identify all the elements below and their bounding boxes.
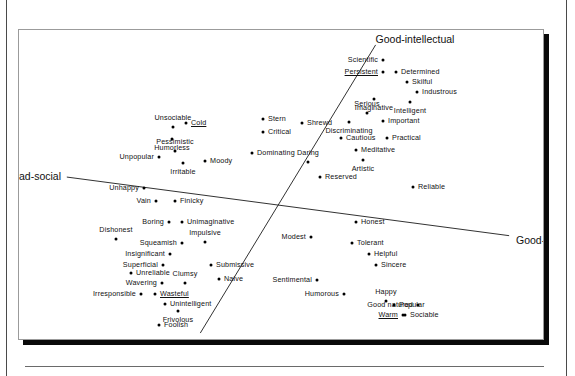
scatter-point — [155, 200, 158, 203]
scatter-point — [393, 304, 396, 307]
scatter-point — [158, 156, 161, 159]
point-label: Happy — [375, 288, 397, 296]
point-label: Reserved — [325, 173, 357, 181]
scatter-point — [174, 200, 177, 203]
scatter-point — [343, 293, 346, 296]
point-label: Irresponsible — [93, 290, 136, 298]
page-footer-rule — [25, 366, 544, 367]
point-label: Unreliable — [136, 269, 170, 277]
scatter-point — [340, 137, 343, 140]
figure-plot-area: ScientificPersistentDeterminedSkilfulInd… — [18, 29, 544, 340]
scatter-point — [262, 131, 265, 134]
point-label: Unpopular — [120, 153, 154, 161]
point-label: Warm — [379, 311, 398, 319]
scatter-point — [416, 91, 419, 94]
scatter-point — [375, 264, 378, 267]
scatter-point — [158, 324, 161, 327]
point-label: Daring — [297, 149, 319, 157]
point-label: Persistent — [345, 68, 378, 76]
scatter-point — [204, 160, 207, 163]
scatter-point — [184, 282, 187, 285]
point-label: Sentimental — [272, 276, 312, 284]
scatter-point — [351, 242, 354, 245]
scatter-point — [140, 293, 143, 296]
scatter-point — [130, 272, 133, 275]
point-label: Foolish — [164, 321, 188, 329]
point-label: Humorous — [305, 290, 339, 298]
point-label: Vain — [137, 197, 151, 205]
scatter-point — [115, 238, 118, 241]
point-label: Submissive — [216, 261, 254, 269]
scatter-point — [251, 152, 254, 155]
scatter-point — [382, 71, 385, 74]
scatter-point — [382, 59, 385, 62]
scatter-point — [348, 121, 351, 124]
point-label: Cautious — [346, 134, 376, 142]
point-label: Dishonest — [99, 226, 132, 234]
scatter-point — [395, 71, 398, 74]
point-label: Serious — [354, 100, 379, 108]
scatter-point — [404, 314, 407, 317]
page-border-right — [566, 0, 567, 376]
point-label: Clumsy — [173, 270, 198, 278]
point-label: Finicky — [180, 197, 203, 205]
point-label: Wavering — [126, 279, 157, 287]
point-label: Impulsive — [189, 229, 221, 237]
scatter-point — [182, 162, 185, 165]
axis-end-label: Bad-social — [18, 170, 61, 182]
point-label: Unimaginative — [187, 218, 234, 226]
scatter-point — [316, 279, 319, 282]
point-label: Wasteful — [160, 290, 189, 298]
point-label: Unhappy — [109, 184, 139, 192]
scatter-point — [362, 159, 365, 162]
axis-end-label: Good-social — [516, 234, 544, 246]
scatter-point — [366, 112, 369, 115]
scatter-point — [307, 161, 310, 164]
point-label: Sincere — [381, 261, 406, 269]
point-label: Dominating — [257, 149, 295, 157]
point-label: Shrewd — [307, 119, 332, 127]
point-label: Tolerant — [357, 239, 384, 247]
point-label: Scientific — [348, 56, 378, 64]
scatter-point — [162, 264, 165, 267]
point-label: Cold — [191, 119, 206, 127]
point-label: Critical — [268, 128, 291, 136]
scatter-point — [177, 310, 180, 313]
scatter-point — [168, 221, 171, 224]
point-label: Naive — [224, 275, 243, 283]
scatter-point — [355, 149, 358, 152]
scatter-point — [172, 126, 175, 129]
point-label: Popular — [399, 301, 425, 309]
point-label: Meditative — [361, 146, 395, 154]
scatter-point — [412, 186, 415, 189]
scatter-point — [204, 241, 207, 244]
scatter-point — [154, 293, 157, 296]
scatter-point — [169, 253, 172, 256]
scatter-point — [164, 303, 167, 306]
scatter-point — [174, 150, 177, 153]
point-label: Irritable — [170, 168, 195, 176]
page-border-left — [6, 0, 7, 376]
point-label: Sociable — [410, 311, 439, 319]
point-label: Pessimistic — [156, 138, 194, 146]
scatter-point — [161, 282, 164, 285]
point-label: Stern — [268, 115, 286, 123]
point-label: Determined — [401, 68, 440, 76]
point-label: Practical — [392, 134, 421, 142]
point-label: Skilful — [412, 78, 432, 86]
point-label: Unintelligent — [170, 300, 211, 308]
scatter-point — [181, 242, 184, 245]
scatter-point — [181, 221, 184, 224]
point-label: Squeamish — [140, 239, 177, 247]
scatter-point — [406, 81, 409, 84]
scatter-point — [218, 278, 221, 281]
scatter-point — [310, 236, 313, 239]
scatter-point — [368, 253, 371, 256]
axis-end-label: Bad-intellectual — [159, 337, 231, 340]
point-label: Moody — [210, 157, 232, 165]
scatter-point — [262, 118, 265, 121]
axis-end-label: Good-intellectual — [376, 33, 455, 45]
scatter-point — [143, 187, 146, 190]
point-label: Important — [388, 117, 420, 125]
point-label: Insignificant — [125, 250, 165, 258]
